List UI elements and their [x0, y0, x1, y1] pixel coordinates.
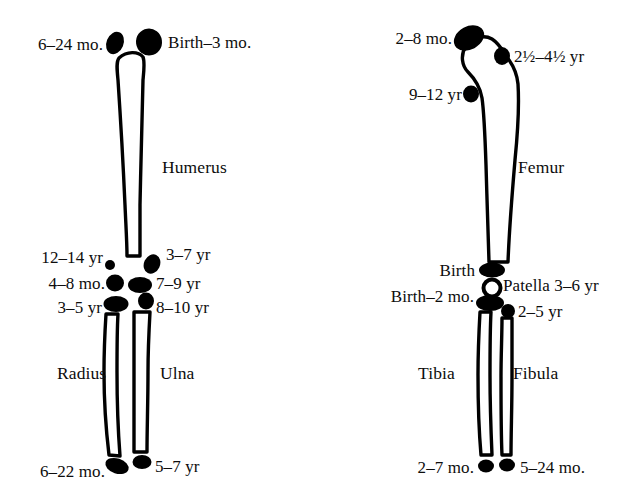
humeral-head-lateral-center — [103, 29, 127, 57]
label-radial-head: 3–5 yr — [57, 299, 102, 316]
humerus-shaft-outline — [117, 53, 144, 256]
olecranon-center — [138, 293, 154, 310]
fibula-outline — [501, 318, 512, 455]
label-radius: Radius — [57, 365, 106, 383]
label-distal-tibia: 2–7 mo. — [418, 459, 474, 476]
ulna-outline — [134, 312, 150, 452]
label-lateral-epicondyle: 3–7 yr — [166, 246, 211, 263]
femur-outline — [462, 37, 518, 262]
radius-outline — [104, 314, 120, 456]
label-trochlea: 7–9 yr — [156, 275, 201, 292]
label-olecranon: 8–10 yr — [156, 299, 209, 316]
label-humerus: Humerus — [162, 159, 227, 177]
label-fibula: Fibula — [513, 365, 558, 383]
distal-femur-center — [479, 263, 505, 278]
medial-epicondyle-center — [105, 260, 115, 270]
label-distal-fibula: 5–24 mo. — [520, 459, 585, 476]
label-capitellum: 4–8 mo. — [49, 275, 105, 292]
capitellum-center — [106, 275, 124, 292]
label-humeral-head-medial: Birth–3 mo. — [168, 34, 251, 51]
label-patella: Patella 3–6 yr — [503, 277, 599, 294]
label-distal-ulna: 5–7 yr — [155, 458, 200, 475]
distal-ulna-center — [133, 455, 152, 469]
distal-radius-center — [103, 455, 130, 477]
label-proximal-fibula: 2–5 yr — [518, 303, 563, 320]
label-distal-femur: Birth — [440, 262, 475, 279]
label-lesser-trochanter: 9–12 yr — [409, 86, 462, 103]
label-tibia: Tibia — [418, 365, 455, 383]
label-femoral-head: 2–8 mo. — [396, 30, 452, 47]
lesser-trochanter-center — [463, 86, 479, 103]
patella-center — [484, 280, 501, 297]
distal-fibula-center — [499, 459, 515, 472]
tibia-outline — [478, 312, 492, 455]
label-humeral-head-lateral: 6–24 mo. — [38, 36, 103, 53]
label-proximal-tibia: Birth–2 mo. — [391, 288, 474, 305]
proximal-fibula-center — [501, 304, 515, 318]
label-medial-epicondyle: 12–14 yr — [41, 249, 103, 266]
label-femur: Femur — [518, 159, 564, 177]
proximal-tibia-center — [476, 295, 504, 311]
greater-trochanter-center — [494, 47, 510, 65]
trochlea-center — [128, 277, 152, 293]
distal-tibia-center — [478, 460, 494, 473]
label-distal-radius: 6–22 mo. — [40, 463, 105, 480]
upper-limb-group — [103, 27, 164, 477]
lateral-epicondyle-center — [141, 252, 164, 277]
radial-head-center — [104, 296, 129, 312]
label-ulna: Ulna — [160, 365, 194, 383]
label-greater-trochanter: 2½–4½ yr — [514, 48, 584, 65]
